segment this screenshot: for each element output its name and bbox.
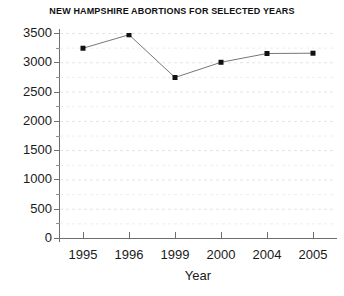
- data-point-marker: [311, 51, 316, 56]
- series-line: [83, 35, 313, 78]
- data-point-marker: [265, 51, 270, 56]
- data-point-marker: [81, 46, 86, 51]
- y-tick-label: 2500: [6, 85, 52, 98]
- data-point-marker: [173, 75, 178, 80]
- y-tick-label: 1500: [6, 143, 52, 156]
- x-axis-title: Year: [60, 268, 336, 283]
- y-tick-label: 3500: [6, 26, 52, 39]
- x-tick-label: 2005: [285, 248, 341, 261]
- y-tick-mark: [54, 238, 60, 239]
- chart-title: NEW HAMPSHIRE ABORTIONS FOR SELECTED YEA…: [0, 6, 344, 16]
- data-series-abortions: [60, 33, 336, 238]
- y-tick-label: 1000: [6, 172, 52, 185]
- y-tick-label: 2000: [6, 114, 52, 127]
- data-point-marker: [219, 60, 224, 65]
- y-tick-label: 500: [6, 202, 52, 215]
- chart-container: NEW HAMPSHIRE ABORTIONS FOR SELECTED YEA…: [0, 0, 344, 296]
- y-tick-label: 3000: [6, 55, 52, 68]
- plot-area: [60, 33, 336, 238]
- data-point-marker: [127, 33, 132, 37]
- x-axis-line: [59, 238, 337, 239]
- y-tick-label: 0: [6, 231, 52, 244]
